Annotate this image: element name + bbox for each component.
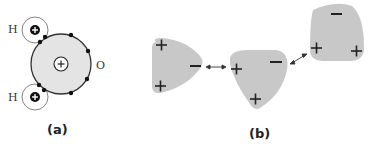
electron-dot xyxy=(85,77,89,81)
water-molecule-figure: H H O (a) xyxy=(0,0,372,147)
electron-dot xyxy=(37,83,41,87)
electron-dot xyxy=(38,40,42,44)
panel-a-label: (a) xyxy=(47,122,68,137)
panel-b: (b) xyxy=(152,4,364,141)
water-molecule-2 xyxy=(230,50,288,109)
electron-dot xyxy=(86,49,90,53)
panel-b-label: (b) xyxy=(249,126,270,141)
oxygen-label: O xyxy=(96,59,105,72)
water-molecule-3 xyxy=(310,4,364,61)
oxygen-nucleus-icon xyxy=(54,57,68,71)
electron-dot xyxy=(42,88,46,92)
hydrogen-top-nucleus-icon xyxy=(30,25,40,35)
hydrogen-bond-arrow xyxy=(206,65,226,69)
water-molecule-1 xyxy=(152,38,203,93)
hydrogen-bottom-nucleus-icon xyxy=(30,92,40,102)
panel-a: H H O (a) xyxy=(8,17,105,137)
electron-dot xyxy=(69,91,73,95)
hydrogen-bond-arrow xyxy=(290,54,307,64)
electron-dot xyxy=(69,33,73,37)
hydrogen-bottom-label: H xyxy=(8,91,18,104)
electron-dot xyxy=(43,35,47,39)
hydrogen-top-label: H xyxy=(8,23,18,36)
